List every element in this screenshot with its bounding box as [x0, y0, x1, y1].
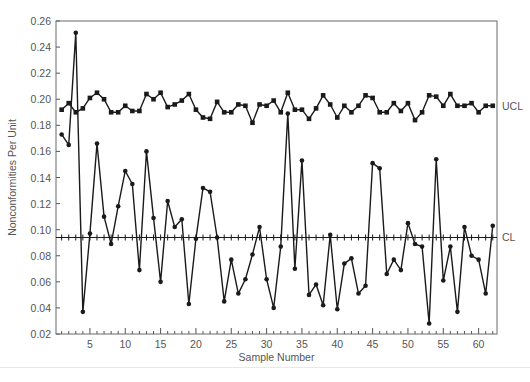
square-marker	[307, 117, 312, 122]
square-marker	[187, 92, 192, 97]
circle-marker	[59, 132, 64, 137]
circle-marker	[215, 235, 220, 240]
circle-marker	[441, 278, 446, 283]
circle-marker	[356, 291, 361, 296]
x-tick-label: 10	[119, 338, 131, 350]
square-marker	[59, 107, 64, 112]
square-marker	[222, 110, 227, 115]
square-marker	[293, 107, 298, 112]
circle-marker	[66, 143, 71, 148]
circle-marker	[406, 221, 411, 226]
circle-marker	[349, 256, 354, 261]
circle-marker	[257, 225, 262, 230]
square-marker	[321, 93, 326, 98]
circle-marker	[165, 199, 170, 204]
x-axis-title: Sample Number	[239, 351, 315, 363]
center-line	[56, 234, 497, 240]
y-tick-label: 0.04	[31, 302, 52, 314]
y-tick-label: 0.26	[31, 15, 52, 27]
circle-marker	[243, 277, 248, 282]
square-marker	[151, 97, 156, 102]
bottom-divider	[0, 367, 530, 368]
circle-marker	[455, 310, 460, 315]
circle-marker	[73, 30, 78, 35]
square-marker	[116, 110, 121, 115]
square-marker	[406, 101, 411, 106]
square-marker	[377, 110, 382, 115]
square-marker	[392, 101, 397, 106]
circle-marker	[208, 190, 213, 195]
circle-marker	[109, 242, 114, 247]
circle-marker	[250, 252, 255, 257]
square-marker	[349, 110, 354, 115]
circle-marker	[420, 244, 425, 249]
circle-marker	[278, 244, 283, 249]
square-marker	[286, 90, 291, 95]
square-marker	[179, 98, 184, 103]
square-marker	[434, 94, 439, 99]
square-marker	[257, 102, 262, 107]
square-marker	[109, 110, 114, 115]
y-tick-label: 0.02	[31, 328, 52, 340]
square-marker	[165, 105, 170, 110]
square-marker	[264, 103, 269, 108]
y-tick-label: 0.24	[31, 41, 52, 53]
square-marker	[490, 103, 495, 108]
square-marker	[441, 103, 446, 108]
x-axis-ticks: 51015202530354045505560	[62, 328, 493, 350]
circle-marker	[222, 299, 227, 304]
circle-marker	[172, 225, 177, 230]
square-marker	[356, 103, 361, 108]
circle-marker	[151, 216, 156, 221]
square-marker	[229, 110, 234, 115]
square-marker	[66, 101, 71, 106]
circle-marker	[314, 282, 319, 287]
square-marker	[271, 98, 276, 103]
square-marker	[420, 110, 425, 115]
square-marker	[158, 90, 163, 95]
circle-marker	[194, 236, 199, 241]
circle-marker	[335, 307, 340, 312]
square-marker	[88, 96, 93, 101]
y-tick-label: 0.18	[31, 119, 52, 131]
circle-marker	[102, 214, 107, 219]
square-marker	[335, 115, 340, 120]
square-marker	[215, 100, 220, 105]
circle-marker	[293, 266, 298, 271]
circle-marker	[229, 257, 234, 262]
circle-marker	[377, 166, 382, 171]
y-tick-label: 0.06	[31, 276, 52, 288]
x-tick-label: 50	[402, 338, 414, 350]
square-marker	[81, 106, 86, 111]
data-series	[59, 30, 495, 325]
circle-marker	[328, 233, 333, 238]
circle-marker	[116, 204, 121, 209]
x-tick-label: 60	[473, 338, 485, 350]
square-marker	[236, 102, 241, 107]
circle-marker	[370, 161, 375, 166]
square-marker	[137, 109, 142, 114]
x-tick-label: 5	[87, 338, 93, 350]
square-marker	[95, 90, 100, 95]
circle-marker	[236, 291, 241, 296]
circle-marker	[448, 244, 453, 249]
circle-marker	[307, 293, 312, 298]
circle-marker	[469, 253, 474, 258]
circle-marker	[187, 302, 192, 307]
circle-marker	[300, 158, 305, 163]
square-marker	[363, 93, 368, 98]
circle-marker	[286, 111, 291, 116]
x-tick-label: 55	[437, 338, 449, 350]
circle-marker	[413, 242, 418, 247]
circle-marker	[434, 157, 439, 162]
square-marker	[278, 110, 283, 115]
square-marker	[194, 107, 199, 112]
square-marker	[123, 103, 128, 108]
control-chart: 0.020.040.060.080.100.120.140.160.180.20…	[0, 0, 530, 382]
square-marker	[476, 110, 481, 115]
circle-marker	[123, 169, 128, 174]
square-marker	[427, 93, 432, 98]
circle-marker	[179, 217, 184, 222]
x-tick-label: 45	[367, 338, 379, 350]
square-marker	[172, 102, 177, 107]
